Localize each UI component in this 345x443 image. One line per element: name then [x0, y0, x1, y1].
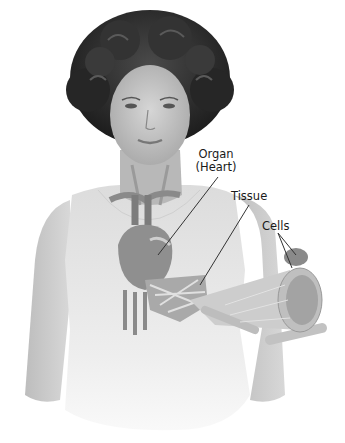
- organ-label-line2: (Heart): [194, 161, 238, 174]
- tissue-label: Tissue: [231, 190, 267, 203]
- body-organization-illustration: [0, 0, 345, 443]
- cells-label: Cells: [262, 220, 290, 233]
- organ-label: Organ (Heart): [194, 148, 238, 174]
- face: [110, 65, 190, 165]
